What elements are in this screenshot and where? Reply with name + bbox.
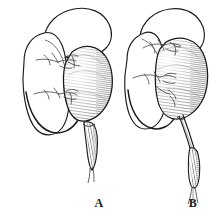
panel-b-descending-cord (177, 115, 194, 148)
panel-a-specimen (23, 8, 118, 183)
panel-label-a: A (89, 196, 109, 210)
panel-b-specimen (125, 9, 214, 204)
panel-a-descending-cord (82, 120, 100, 183)
panel-a-lower-lobe-outline (23, 33, 69, 135)
anatomical-figure: A B (0, 0, 224, 219)
panel-label-b: B (183, 196, 203, 210)
figure-illustration (0, 0, 224, 219)
